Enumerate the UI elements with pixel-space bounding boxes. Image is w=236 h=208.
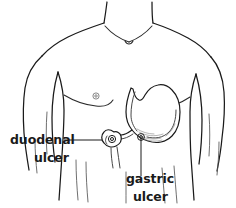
duodenal-ulcer-label-line2: ulcer xyxy=(34,150,70,165)
duodenal-bulb xyxy=(102,130,122,147)
clavicle-right xyxy=(129,26,152,42)
neck-right-line xyxy=(152,2,153,23)
arm-right-crease xyxy=(217,142,219,175)
duodenum-descending-2 xyxy=(117,147,120,168)
shoulder-right-slope xyxy=(153,23,211,57)
arm-right-muscle-line xyxy=(209,114,210,156)
gastric-ulcer-label-line2: ulcer xyxy=(133,189,169,204)
ulcer-diagram-figure: duodenal ulcer gastric ulcer xyxy=(0,0,236,208)
duodenal-ulcer-label-line1: duodenal xyxy=(10,132,75,147)
gastric-ulcer-label-line1: gastric xyxy=(126,171,174,186)
nipple-left-mark xyxy=(93,93,99,99)
abdomen-line-left xyxy=(76,160,78,200)
arm-right-inner xyxy=(196,74,202,164)
arm-right-outer xyxy=(211,57,224,171)
abdomen-line-left-inner xyxy=(86,162,88,202)
torso-right-side xyxy=(190,74,196,200)
abdomen-line-right xyxy=(174,166,177,203)
diagram-labels: duodenal ulcer gastric ulcer xyxy=(10,132,174,204)
shoulder-left-slope xyxy=(42,23,104,56)
human-torso-outline xyxy=(23,2,224,203)
arm-left-inner xyxy=(52,72,58,162)
neck-left-line xyxy=(104,2,107,23)
anatomy-illustration: duodenal ulcer gastric ulcer xyxy=(0,0,236,208)
clavicle-left xyxy=(105,26,129,42)
duodenum-descending xyxy=(111,148,113,168)
pectoral-left xyxy=(64,95,113,106)
